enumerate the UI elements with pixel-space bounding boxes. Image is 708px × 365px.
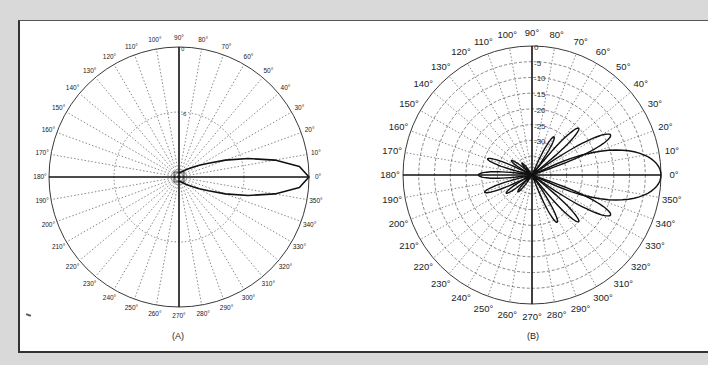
angle-label: 310° xyxy=(262,280,276,287)
angle-label: 70° xyxy=(573,36,588,47)
angle-label: 270° xyxy=(522,311,542,322)
angle-label: 250° xyxy=(474,303,494,314)
radial-label: -6 xyxy=(181,111,187,117)
angle-label: 280° xyxy=(547,309,567,320)
angle-label: 100° xyxy=(498,29,518,40)
grid-spoke xyxy=(179,93,279,177)
angle-label: 120° xyxy=(103,53,117,60)
angle-label: 340° xyxy=(656,218,676,229)
angle-label: 150° xyxy=(52,104,66,111)
angle-label: 200° xyxy=(389,218,409,229)
radial-label: -20 xyxy=(534,106,546,115)
angle-label: 120° xyxy=(451,46,471,57)
angle-label: 210° xyxy=(399,240,419,251)
angle-label: 280° xyxy=(196,310,210,317)
angle-label: 60° xyxy=(596,46,611,57)
angle-label: 260° xyxy=(498,309,518,320)
angle-label: 350° xyxy=(662,194,682,205)
angle-label: 150° xyxy=(399,98,419,109)
angle-label: 240° xyxy=(103,294,117,301)
angle-label: 290° xyxy=(220,304,234,311)
radial-label: -30 xyxy=(534,137,546,146)
angle-label: 190° xyxy=(382,194,402,205)
angle-label: 20° xyxy=(305,126,315,133)
angle-label: 130° xyxy=(83,67,97,74)
radial-label: -10 xyxy=(534,74,546,83)
angle-label: 220° xyxy=(66,263,80,270)
angle-label: 0° xyxy=(669,169,678,180)
angle-label: 300° xyxy=(593,292,613,303)
angle-label: 110° xyxy=(125,43,138,50)
grid-spoke xyxy=(449,76,532,175)
angle-label: 10° xyxy=(665,145,680,156)
angle-label: 80° xyxy=(549,29,564,40)
radial-label: 0 xyxy=(534,43,539,52)
angle-label: 50° xyxy=(263,67,273,74)
angle-label: 310° xyxy=(613,278,633,289)
angle-label: 130° xyxy=(431,61,451,72)
polar-plot-a: 0°10°20°30°40°50°60°70°80°90°100°110°120… xyxy=(33,34,323,319)
angle-label: 70° xyxy=(222,43,232,50)
polar-plot-b: 0°10°20°30°40°50°60°70°80°90°100°110°120… xyxy=(380,27,682,322)
angle-label: 170° xyxy=(35,149,49,156)
angle-label: 20° xyxy=(658,121,673,132)
angle-label: 270° xyxy=(172,312,186,319)
angle-label: 80° xyxy=(198,36,208,43)
angle-label: 180° xyxy=(33,173,47,180)
angle-label: 330° xyxy=(645,240,665,251)
angle-label: 220° xyxy=(413,261,433,272)
angle-label: 140° xyxy=(66,84,80,91)
angle-label: 230° xyxy=(83,280,97,287)
angle-label: 60° xyxy=(244,53,254,60)
caption-b: (B) xyxy=(527,331,539,341)
radial-label: -15 xyxy=(534,90,546,99)
angle-label: 110° xyxy=(474,36,493,47)
radiation-lobe xyxy=(532,128,579,175)
angle-label: 200° xyxy=(42,221,56,228)
angle-label: 30° xyxy=(294,104,304,111)
angle-label: 30° xyxy=(648,98,663,109)
angle-label: 250° xyxy=(125,304,139,311)
grid-spoke xyxy=(179,177,279,261)
angle-label: 100° xyxy=(148,36,162,43)
angle-label: 170° xyxy=(382,145,402,156)
angle-label: 140° xyxy=(413,78,433,89)
grid-spoke xyxy=(449,175,532,274)
angle-label: 160° xyxy=(389,121,409,132)
angle-label: 340° xyxy=(303,221,317,228)
angle-label: 90° xyxy=(525,27,540,38)
caption-a: (A) xyxy=(172,331,184,341)
angle-label: 230° xyxy=(431,278,451,289)
angle-label: 50° xyxy=(616,61,631,72)
angle-label: 320° xyxy=(279,263,293,270)
angle-label: 180° xyxy=(380,169,400,180)
angle-label: 160° xyxy=(42,126,56,133)
angle-label: 90° xyxy=(174,34,184,41)
angle-label: 350° xyxy=(309,197,323,204)
angle-label: 40° xyxy=(634,78,649,89)
angle-label: 320° xyxy=(631,261,651,272)
angle-label: 0° xyxy=(315,173,322,180)
angle-label: 260° xyxy=(148,310,162,317)
angle-label: 40° xyxy=(281,84,291,91)
radial-label: -5 xyxy=(534,59,542,68)
angle-label: 240° xyxy=(451,292,471,303)
angle-label: 10° xyxy=(311,149,321,156)
angle-label: 290° xyxy=(571,303,591,314)
angle-label: 300° xyxy=(242,294,256,301)
radial-label: -25 xyxy=(534,122,546,131)
angle-label: 210° xyxy=(52,243,66,250)
angle-label: 190° xyxy=(35,197,49,204)
angle-label: 330° xyxy=(293,243,307,250)
